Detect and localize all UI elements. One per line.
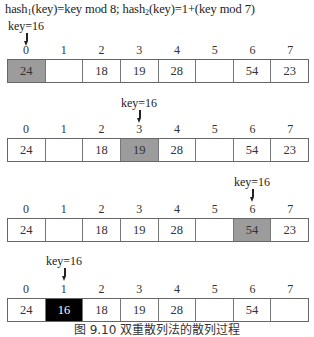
slot-index: 1 — [45, 202, 83, 216]
slot-index: 6 — [234, 122, 272, 136]
hash2-definition: (key)=1+(key mod 7) — [149, 2, 255, 16]
hash-slot: 54 — [234, 60, 272, 82]
slot-index: 5 — [196, 202, 234, 216]
hash-slot — [196, 139, 234, 161]
hash-slot: 28 — [159, 299, 197, 321]
hash-slot: 28 — [159, 219, 197, 241]
slot-index: 0 — [7, 202, 45, 216]
key-label: key=16 — [8, 19, 44, 34]
slot-index: 6 — [234, 43, 272, 57]
hash-table: 24 16 18 19 28 54 — [7, 298, 309, 322]
slot-index: 6 — [234, 202, 272, 216]
hash-slot: 28 — [159, 60, 197, 82]
hash-slot — [46, 60, 84, 82]
hash-slot: 18 — [83, 299, 121, 321]
slot-index: 2 — [83, 122, 121, 136]
slot-index: 7 — [271, 43, 309, 57]
hash-slot-probed: 54 — [234, 219, 272, 241]
hash-slot — [196, 299, 234, 321]
hash-slot: 23 — [271, 139, 308, 161]
hash-slot: 54 — [234, 139, 272, 161]
hash-table: 24 18 19 28 54 23 — [7, 59, 309, 83]
slot-index: 3 — [120, 282, 158, 296]
slot-index: 1 — [45, 122, 83, 136]
key-label: key=16 — [121, 96, 157, 111]
hash-slot: 19 — [121, 299, 159, 321]
slot-index: 2 — [83, 282, 121, 296]
slot-index-row: 0 1 2 3 4 5 6 7 — [7, 202, 309, 216]
hash-slot: 18 — [83, 139, 121, 161]
slot-index: 0 — [7, 282, 45, 296]
slot-index: 6 — [234, 282, 272, 296]
hash-functions-title: hash1(key)=key mod 8; hash2(key)=1+(key … — [5, 2, 255, 17]
hash-slot: 23 — [271, 60, 308, 82]
hash-slot — [46, 219, 84, 241]
hash-slot: 54 — [234, 299, 272, 321]
slot-index: 0 — [7, 43, 45, 57]
slot-index: 7 — [271, 282, 309, 296]
hash-slot — [196, 60, 234, 82]
figure-caption: 图 9.10 双重散列法的散列过程 — [0, 320, 314, 337]
hash-slot: 24 — [8, 139, 46, 161]
hash-slot: 23 — [271, 219, 308, 241]
hash1-definition: (key)=key mod 8; — [31, 2, 122, 16]
slot-index-row: 0 1 2 3 4 5 6 7 — [7, 282, 309, 296]
slot-index: 5 — [196, 282, 234, 296]
hash-slot: 19 — [121, 60, 159, 82]
hash-slot — [46, 139, 84, 161]
hash-slot-probed: 24 — [8, 60, 46, 82]
hash-slot: 18 — [83, 60, 121, 82]
slot-index-row: 0 1 2 3 4 5 6 7 — [7, 43, 309, 57]
slot-index: 1 — [45, 43, 83, 57]
slot-index: 4 — [158, 122, 196, 136]
slot-index: 3 — [120, 43, 158, 57]
hash-slot — [271, 299, 308, 321]
hash-slot-probed: 19 — [121, 139, 159, 161]
slot-index: 4 — [158, 282, 196, 296]
hash-slot-placed: 16 — [46, 299, 84, 321]
key-label: key=16 — [234, 175, 270, 190]
slot-index: 5 — [196, 43, 234, 57]
slot-index: 4 — [158, 43, 196, 57]
slot-index: 7 — [271, 202, 309, 216]
hash-slot — [196, 219, 234, 241]
slot-index: 3 — [120, 122, 158, 136]
slot-index: 4 — [158, 202, 196, 216]
slot-index: 5 — [196, 122, 234, 136]
hash-slot: 28 — [159, 139, 197, 161]
hash-slot: 24 — [8, 299, 46, 321]
hash2-name: hash — [123, 2, 146, 16]
slot-index-row: 0 1 2 3 4 5 6 7 — [7, 122, 309, 136]
hash-slot: 19 — [121, 219, 159, 241]
slot-index: 1 — [45, 282, 83, 296]
slot-index: 0 — [7, 122, 45, 136]
hash-slot: 24 — [8, 219, 46, 241]
hash-table: 24 18 19 28 54 23 — [7, 218, 309, 242]
hash-slot: 18 — [83, 219, 121, 241]
slot-index: 3 — [120, 202, 158, 216]
slot-index: 2 — [83, 202, 121, 216]
slot-index: 2 — [83, 43, 121, 57]
key-label: key=16 — [46, 254, 82, 269]
hash-table: 24 18 19 28 54 23 — [7, 138, 309, 162]
slot-index: 7 — [271, 122, 309, 136]
hash1-name: hash — [5, 2, 28, 16]
